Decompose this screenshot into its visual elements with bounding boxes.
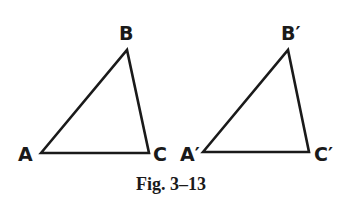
label-a: A xyxy=(18,143,33,165)
triangle-a-prime-b-prime-c-prime xyxy=(203,50,309,152)
label-a-prime: A′ xyxy=(180,143,200,165)
label-c: C xyxy=(153,143,167,165)
label-c-prime: C′ xyxy=(314,143,333,165)
label-b: B xyxy=(119,22,133,44)
diagram-canvas: A B C A′ B′ C′ Fig. 3–13 xyxy=(0,0,342,200)
label-b-prime: B′ xyxy=(281,22,301,44)
triangle-abc xyxy=(41,50,149,153)
figure-caption: Fig. 3–13 xyxy=(136,174,206,194)
figure-3-13: A B C A′ B′ C′ Fig. 3–13 xyxy=(0,0,342,200)
